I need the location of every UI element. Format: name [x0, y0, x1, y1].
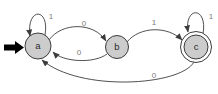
state-b-label: b [114, 41, 119, 52]
transition-label-a-b: 0 [82, 19, 87, 28]
state-a: a [25, 33, 51, 59]
transition-label-b-a: 0 [77, 48, 82, 57]
state-b: b [106, 36, 129, 59]
transition-b-to-c [127, 30, 182, 42]
state-c-label: c [194, 41, 199, 52]
transition-label-b-c: 1 [152, 18, 157, 27]
transition-c-to-c [188, 13, 204, 34]
automaton-diagram: abc 100110 [0, 0, 218, 94]
states-layer: abc [4, 32, 212, 63]
transition-c-to-a [42, 60, 194, 82]
initial-state-arrow-icon [4, 41, 24, 54]
transition-label-c-c: 1 [209, 12, 214, 21]
transition-label-c-a: 0 [152, 71, 157, 80]
state-a-label: a [35, 40, 41, 51]
transition-label-a-a: 1 [49, 12, 54, 21]
state-c: c [181, 32, 212, 63]
automaton-svg: abc 100110 [0, 0, 218, 94]
transition-a-to-b [49, 27, 106, 41]
